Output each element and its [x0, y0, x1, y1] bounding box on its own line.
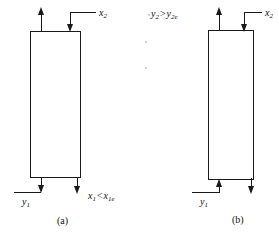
y2-lhs-sub-b: 2 — [155, 13, 159, 21]
y1-leader-line-a — [14, 192, 41, 193]
x2-sub-a: 2 — [103, 12, 107, 20]
panel-a: x2 y1 x1<x1e (a) — [0, 0, 139, 238]
y1-inlet-arrowhead-b — [216, 179, 222, 187]
y2-outlet-arrowhead-b — [216, 7, 222, 15]
y2-rhs-sub-b: 2e — [171, 13, 178, 21]
x1-outlet-arrowhead-b — [248, 186, 254, 194]
figure-container: x2 y1 x1<x1e (a) y2>y2e — [0, 0, 279, 238]
x2-inlet-arrowhead-b — [241, 24, 247, 32]
caption-b: (b) — [232, 214, 244, 225]
y1-label-a: y1 — [22, 197, 30, 207]
y2-operator-b: > — [159, 8, 167, 19]
y2-inequality-label-b: y2>y2e — [151, 9, 178, 19]
scan-speck — [148, 14, 150, 16]
y2-outlet-stem-b — [219, 13, 221, 31]
column-body-a — [30, 31, 81, 178]
x1-operator-a: < — [96, 190, 104, 201]
y1-leader-line-b — [192, 192, 219, 193]
x2-leader-line-b — [244, 12, 262, 13]
y1-sub-a: 1 — [26, 201, 30, 209]
x2-label-b: x2 — [265, 8, 273, 18]
top-left-outlet-arrowhead-a — [38, 7, 44, 15]
scan-speck — [145, 41, 147, 43]
x2-label-a: x2 — [99, 8, 107, 18]
caption-a: (a) — [57, 215, 68, 226]
x2-inlet-arrowhead-a — [67, 24, 73, 32]
x1-outlet-arrowhead-a — [74, 186, 80, 194]
x1-lhs-sub-a: 1 — [92, 195, 96, 203]
x1-rhs-sub-a: 1e — [108, 195, 115, 203]
panel-b: y2>y2e x2 y1 (b) — [139, 0, 278, 238]
y1-sub-b: 1 — [204, 201, 208, 209]
y1-label-b: y1 — [200, 197, 208, 207]
x1-inequality-label-a: x1<x1e — [88, 191, 115, 201]
x2-sub-b: 2 — [269, 12, 273, 20]
top-left-outlet-stem-a — [41, 13, 43, 32]
scan-speck — [145, 67, 147, 69]
column-body-b — [208, 30, 254, 180]
x2-leader-line-a — [70, 12, 96, 13]
